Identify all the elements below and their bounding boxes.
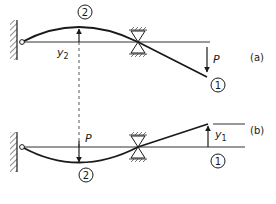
pin-joint-icon — [20, 145, 25, 150]
deflected-beam-curve — [22, 124, 208, 163]
svg-text:1: 1 — [215, 156, 221, 167]
point-1-marker: 1 — [211, 154, 225, 168]
deflected-beam-curve — [22, 27, 207, 77]
load-label-p: P — [85, 132, 92, 145]
point-2-marker: 2 — [78, 5, 92, 19]
deflection-label-y2: y2 — [56, 46, 69, 61]
deflection-label-y1: y1 — [214, 128, 227, 143]
fixed-wall-icon — [10, 132, 17, 172]
point-1-marker: 1 — [211, 78, 225, 92]
svg-text:1: 1 — [215, 80, 221, 91]
fixed-wall-icon — [10, 20, 17, 60]
load-label-p: P — [213, 53, 220, 66]
panel-b-label: (b) — [250, 125, 264, 136]
point-2-marker: 2 — [79, 168, 93, 182]
panel-a-label: (a) — [250, 52, 264, 63]
panel-a: y2 P 2 1 (a) — [10, 5, 264, 92]
beam-reciprocity-diagram: y2 P 2 1 (a) — [0, 0, 276, 204]
panel-b: P y1 2 1 (b) — [10, 124, 264, 182]
svg-text:2: 2 — [83, 170, 89, 181]
svg-text:2: 2 — [82, 7, 88, 18]
pin-joint-icon — [20, 40, 25, 45]
